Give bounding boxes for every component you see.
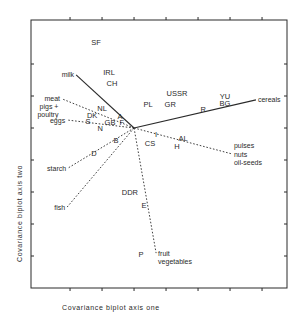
vector-label: pulsesnutsoil-seeds xyxy=(234,142,263,166)
point-label-bg: BG xyxy=(219,99,230,108)
vector-label-line: fish xyxy=(54,204,65,211)
point-label-gb: GB xyxy=(105,118,116,127)
vector-label-line: vegetables xyxy=(158,258,192,266)
country-points: SFIRLCHNLADKSGBFNBDPLGRUSSRRYUBGICSALHDD… xyxy=(85,38,230,259)
point-label-cs: CS xyxy=(145,139,155,148)
vector-label-line: oil-seeds xyxy=(234,159,263,166)
point-label-ch: CH xyxy=(107,79,118,88)
point-label-pl: PL xyxy=(144,100,153,109)
x-axis-title: Covariance biplot axis one xyxy=(62,304,160,312)
plot-frame xyxy=(31,20,287,288)
point-label-gr: GR xyxy=(165,100,177,109)
point-label-ddr: DDR xyxy=(122,188,139,197)
point-label-r: R xyxy=(200,105,206,114)
point-label-h: H xyxy=(174,142,179,151)
vector-label: meat xyxy=(44,95,60,102)
vector-label: starch xyxy=(47,165,66,172)
biplot-chart: milkmeatpigs +poultryeggsstarchfishfruit… xyxy=(0,0,308,320)
vector-label-line: starch xyxy=(47,165,66,172)
vector-label-line: meat xyxy=(44,95,60,102)
vector-label: milk xyxy=(62,71,75,78)
y-axis-title: Covariance biplot axis two xyxy=(16,165,24,262)
variable-vectors: milkmeatpigs +poultryeggsstarchfishfruit… xyxy=(37,71,281,266)
vector-label-line: cereals xyxy=(258,96,281,103)
point-label-irl: IRL xyxy=(103,68,115,77)
point-label-sf: SF xyxy=(91,38,101,47)
point-label-n: N xyxy=(97,124,102,133)
point-label-p: P xyxy=(139,250,144,259)
point-label-nl: NL xyxy=(97,104,107,113)
vector-label-line: pigs + xyxy=(40,103,59,111)
point-label-f: F xyxy=(120,118,125,127)
point-label-b: B xyxy=(114,136,119,145)
point-label-e: E xyxy=(141,201,146,210)
vector-label-line: eggs xyxy=(50,117,66,125)
point-label-ussr: USSR xyxy=(166,89,187,98)
vector-label: cereals xyxy=(258,96,281,103)
point-label-d: D xyxy=(91,149,97,158)
point-label-i: I xyxy=(155,130,157,139)
vector-label: eggs xyxy=(50,117,66,125)
vector-label-line: nuts xyxy=(234,151,248,158)
vector-label: fruitvegetables xyxy=(158,250,192,267)
vector-starch xyxy=(68,128,134,168)
vector-label-line: fruit xyxy=(158,250,170,257)
point-label-al: AL xyxy=(178,134,187,143)
point-label-s: S xyxy=(85,117,90,126)
vector-label-line: milk xyxy=(62,71,75,78)
vector-label: fish xyxy=(54,204,65,211)
vector-label-line: pulses xyxy=(234,142,255,150)
